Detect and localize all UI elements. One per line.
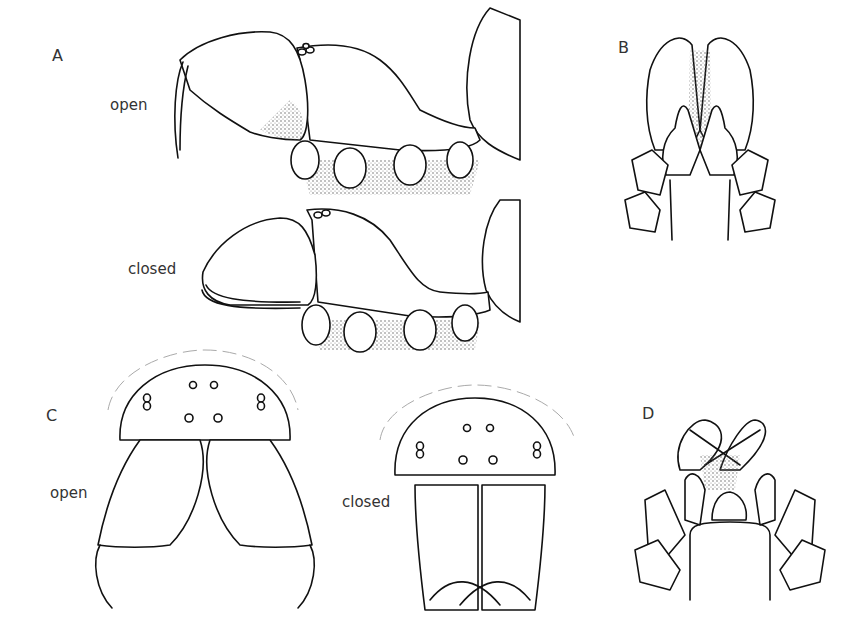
panel-label-c: C: [46, 406, 57, 425]
panel-label-b: B: [618, 38, 629, 57]
caption-c-open: open: [50, 484, 87, 502]
panel-b-drawing: [625, 38, 775, 240]
panel-a-closed-drawing: [202, 200, 520, 352]
panel-label-d: D: [642, 404, 654, 423]
caption-c-closed: closed: [342, 493, 390, 511]
panel-label-a: A: [52, 46, 63, 65]
caption-a-open: open: [110, 96, 147, 114]
panel-a-open-drawing: [175, 8, 520, 195]
figure: A open closed B C open closed D: [0, 0, 868, 638]
panel-c-open-drawing: [96, 350, 314, 608]
panel-c-closed-drawing: [380, 385, 575, 610]
panel-d-drawing: [635, 420, 825, 600]
caption-a-closed: closed: [128, 260, 176, 278]
